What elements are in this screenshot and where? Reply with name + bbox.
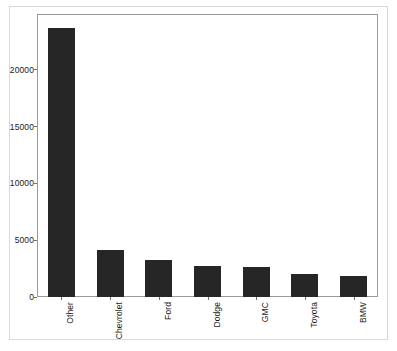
x-axis-tick-mark [208, 297, 209, 300]
bar [340, 276, 367, 297]
bar [291, 274, 318, 297]
y-axis-tick: 10000 [10, 177, 37, 189]
x-axis-tick-label: Other [65, 302, 75, 324]
x-axis-tick-mark [110, 297, 111, 300]
y-axis-tick: 20000 [10, 64, 37, 76]
x-axis-tick-mark [159, 297, 160, 300]
x-axis-tick-mark [354, 297, 355, 300]
y-axis: 05000100001500020000 [0, 0, 37, 311]
y-axis-tick: 0 [29, 291, 37, 303]
x-axis-tick-label: BMW [358, 302, 368, 323]
y-axis-tick-label: 15000 [10, 121, 37, 133]
chart-figure: 05000100001500020000 OtherChevroletFordD… [0, 0, 397, 351]
x-axis-tick-mark [61, 297, 62, 300]
x-axis-tick-label: Toyota [309, 302, 319, 328]
y-axis-tick: 5000 [15, 234, 37, 246]
y-axis-tick-label: 20000 [10, 64, 37, 76]
x-axis-tick-label: Chevrolet [114, 302, 124, 339]
bar [97, 250, 124, 297]
y-axis-tick: 15000 [10, 121, 37, 133]
bar [243, 267, 270, 297]
y-axis-tick-label: 10000 [10, 177, 37, 189]
bar [48, 28, 75, 297]
x-axis-tick-label: Dodge [212, 302, 222, 328]
x-axis-tick-label: GMC [260, 302, 270, 322]
bar [194, 266, 221, 297]
x-axis: OtherChevroletFordDodgeGMCToyotaBMW [37, 297, 378, 351]
bar-series [37, 14, 378, 297]
x-axis-tick-mark [305, 297, 306, 300]
x-axis-tick-label: Ford [163, 302, 173, 320]
bar [145, 260, 172, 298]
x-axis-tick-mark [256, 297, 257, 300]
